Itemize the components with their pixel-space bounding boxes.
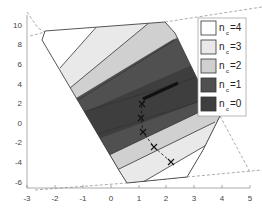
svg-text:-2: -2: [51, 194, 59, 203]
svg-text:-3: -3: [23, 194, 31, 203]
chart-svg: -3 -2 -1 0 1 2 3 4 5 10 8 6 4 2 0 -2 -4 …: [0, 0, 262, 216]
svg-text:c: c: [226, 68, 229, 74]
svg-text:=3: =3: [230, 41, 242, 52]
svg-text:=1: =1: [230, 79, 242, 90]
svg-text:c: c: [226, 30, 229, 36]
chart-figure: -3 -2 -1 0 1 2 3 4 5 10 8 6 4 2 0 -2 -4 …: [0, 0, 262, 216]
svg-text:2: 2: [18, 99, 23, 108]
x-tick-labels: -3 -2 -1 0 1 2 3 4 5: [23, 194, 252, 203]
svg-text:10: 10: [13, 21, 22, 30]
svg-text:-2: -2: [15, 138, 23, 147]
svg-text:5: 5: [248, 194, 253, 203]
legend-swatch: [201, 40, 216, 54]
svg-text:c: c: [226, 87, 229, 93]
svg-text:=0: =0: [230, 98, 242, 109]
svg-text:0: 0: [18, 119, 23, 128]
y-tick-labels: 10 8 6 4 2 0 -2 -4 -6: [13, 21, 22, 187]
svg-text:c: c: [226, 106, 229, 112]
legend-swatch: [201, 97, 216, 111]
svg-text:4: 4: [220, 194, 225, 203]
legend-swatch: [201, 78, 216, 92]
svg-text:c: c: [226, 49, 229, 55]
svg-text:6: 6: [18, 60, 23, 69]
svg-text:2: 2: [164, 194, 169, 203]
x-axis-ticks: [27, 185, 250, 188]
svg-text:0: 0: [109, 194, 114, 203]
svg-text:3: 3: [192, 194, 197, 203]
svg-text:n: n: [219, 79, 225, 90]
svg-text:=2: =2: [230, 60, 242, 71]
svg-text:-1: -1: [79, 194, 87, 203]
svg-text:4: 4: [18, 80, 23, 89]
legend-swatch: [201, 59, 216, 73]
svg-text:-4: -4: [15, 158, 23, 167]
svg-text:n: n: [219, 98, 225, 109]
svg-text:n: n: [219, 22, 225, 33]
svg-text:-6: -6: [15, 178, 23, 187]
svg-text:1: 1: [137, 194, 142, 203]
svg-text:8: 8: [18, 40, 23, 49]
svg-text:n: n: [219, 41, 225, 52]
svg-text:=4: =4: [230, 22, 242, 33]
legend: n c =4 n c =3 n c =2 n c =1 n c =0: [198, 18, 246, 116]
legend-swatch: [201, 21, 216, 35]
svg-text:n: n: [219, 60, 225, 71]
